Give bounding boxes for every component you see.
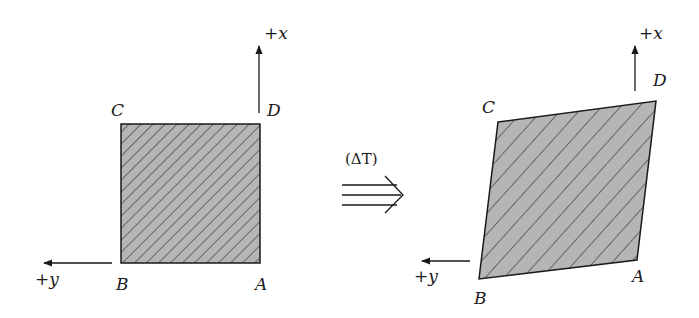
corner-label-b-right: B bbox=[473, 288, 487, 308]
triple-arrow-icon bbox=[342, 176, 403, 213]
deformation-diagram: +x +y C D B A (ΔT) +x +y C D B A bbox=[0, 0, 699, 318]
deformed-element: +x +y C D B A bbox=[414, 23, 667, 308]
corner-label-d-right: D bbox=[652, 70, 667, 90]
parallelogram-hatch bbox=[479, 101, 656, 279]
corner-label-a-right: A bbox=[630, 266, 644, 286]
transition: (ΔT) bbox=[342, 150, 403, 213]
y-axis-label-right: +y bbox=[414, 266, 438, 286]
corner-label-c-left: C bbox=[111, 100, 124, 120]
y-axis-label-left: +y bbox=[35, 269, 59, 289]
corner-label-b-left: B bbox=[115, 274, 129, 294]
corner-label-d-left: D bbox=[266, 100, 281, 120]
undeformed-element: +x +y C D B A bbox=[35, 23, 288, 294]
corner-label-a-left: A bbox=[253, 274, 267, 294]
square-hatch bbox=[121, 124, 260, 263]
corner-label-c-right: C bbox=[482, 97, 495, 117]
x-axis-label-right: +x bbox=[639, 23, 663, 43]
x-axis-label-left: +x bbox=[264, 23, 288, 43]
delta-t-label: (ΔT) bbox=[345, 150, 378, 168]
